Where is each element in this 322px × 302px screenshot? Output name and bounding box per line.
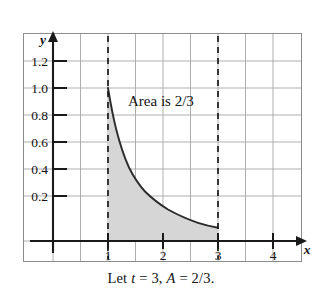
- y-tick-label-1-2: 1.2: [31, 54, 48, 69]
- x-tick-label-2: 2: [160, 248, 167, 263]
- x-axis-label: x: [303, 242, 311, 257]
- caption-prefix: Let: [107, 270, 131, 286]
- caption-t-value: = 3,: [135, 270, 166, 286]
- y-tick-label-1-0: 1.0: [31, 81, 48, 96]
- x-tick-label-3: 3: [215, 248, 222, 263]
- x-tick-label-1: 1: [105, 248, 112, 263]
- caption-variable-a: A: [167, 270, 176, 286]
- figure-caption: Let t = 3, A = 2/3.: [0, 270, 322, 287]
- area-annotation: Area is 2/3: [128, 93, 194, 109]
- figure-plot-area: 1.2 1.0 0.8 0.6 0.4 0.2 1 2 3 4 y x Area…: [0, 0, 322, 302]
- y-tick-label-0-8: 0.8: [31, 108, 48, 123]
- y-tick-label-0-2: 0.2: [31, 189, 48, 204]
- x-tick-label-4: 4: [270, 248, 277, 263]
- y-axis-label: y: [38, 32, 47, 47]
- caption-a-value: = 2/3.: [176, 270, 215, 286]
- y-tick-label-0-6: 0.6: [31, 135, 48, 150]
- y-tick-label-0-4: 0.4: [31, 162, 48, 177]
